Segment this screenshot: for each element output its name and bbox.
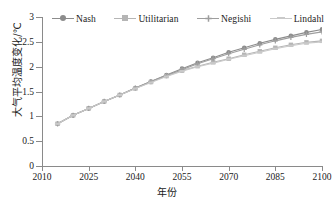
data-point-marker — [242, 55, 247, 57]
series-svg — [42, 17, 322, 166]
y-tick-label: 0.5 — [22, 136, 34, 146]
series-line — [58, 41, 322, 124]
data-point-marker — [117, 94, 122, 96]
x-tick-label: 2010 — [33, 172, 52, 182]
x-tick-mark — [42, 166, 43, 171]
y-tick-label: 2 — [29, 62, 34, 72]
data-point-marker — [257, 51, 262, 53]
y-tick-label: 0 — [29, 161, 34, 171]
data-point-marker — [71, 114, 76, 116]
data-point-marker — [304, 42, 309, 44]
series-line — [58, 42, 322, 124]
data-point-marker — [319, 41, 322, 43]
y-tick-label: 3 — [29, 12, 34, 22]
x-axis-title: 年份 — [0, 184, 334, 199]
x-tick-label: 2025 — [79, 172, 98, 182]
data-point-marker — [55, 123, 60, 125]
x-tick-mark — [275, 166, 276, 171]
data-point-marker — [148, 81, 153, 83]
series-utilitarian — [55, 39, 322, 126]
x-tick-mark — [322, 166, 323, 171]
y-tick-label: 1.5 — [22, 87, 34, 97]
y-tick-label: 2.5 — [22, 37, 34, 47]
x-tick-mark — [182, 166, 183, 171]
data-point-marker — [102, 100, 107, 102]
x-tick-mark — [229, 166, 230, 171]
series-nash — [55, 27, 322, 126]
plot-area — [42, 17, 322, 166]
x-tick-label: 2100 — [313, 172, 332, 182]
y-axis-tick-labels: 00.511.522.53 — [0, 0, 34, 201]
data-point-marker — [179, 70, 184, 72]
data-point-marker — [133, 87, 138, 89]
data-point-marker — [211, 62, 216, 64]
y-tick-label: 1 — [29, 111, 34, 121]
x-tick-label: 2070 — [219, 172, 238, 182]
x-tick-label: 2085 — [266, 172, 285, 182]
x-tick-label: 2040 — [126, 172, 145, 182]
figure-container: NashUtilitarianNegishiLindahl 大气平均温度变化/℃… — [0, 0, 334, 201]
data-point-marker — [195, 66, 200, 68]
x-tick-mark — [89, 166, 90, 171]
x-tick-label: 2055 — [173, 172, 192, 182]
data-point-marker — [86, 107, 91, 109]
series-line — [58, 29, 322, 123]
data-point-marker — [164, 76, 169, 78]
x-tick-mark — [135, 166, 136, 171]
series-lindahl — [55, 41, 322, 125]
data-point-marker — [226, 58, 231, 60]
series-negishi — [55, 29, 322, 126]
data-point-marker — [273, 48, 278, 50]
data-point-marker — [288, 45, 293, 47]
series-line — [58, 32, 322, 124]
